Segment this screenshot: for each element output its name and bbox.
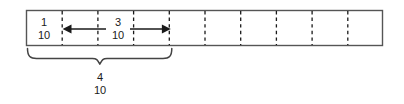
fraction-denominator: 10: [93, 84, 107, 96]
fraction-label-four-tenths: 4 10: [90, 72, 110, 96]
fraction-bar-diagram: 1 10 3 10 4 10: [0, 0, 404, 104]
fraction-denominator: 10: [111, 29, 125, 41]
total-brace: [28, 49, 172, 65]
fraction-numerator: 1: [40, 17, 48, 29]
fraction-label-one-tenth: 1 10: [34, 17, 54, 41]
fraction-label-three-tenths: 3 10: [108, 17, 128, 41]
fraction-numerator: 3: [114, 17, 122, 29]
fraction-numerator: 4: [96, 72, 104, 84]
diagram-canvas: [0, 0, 404, 104]
fraction-denominator: 10: [37, 29, 51, 41]
